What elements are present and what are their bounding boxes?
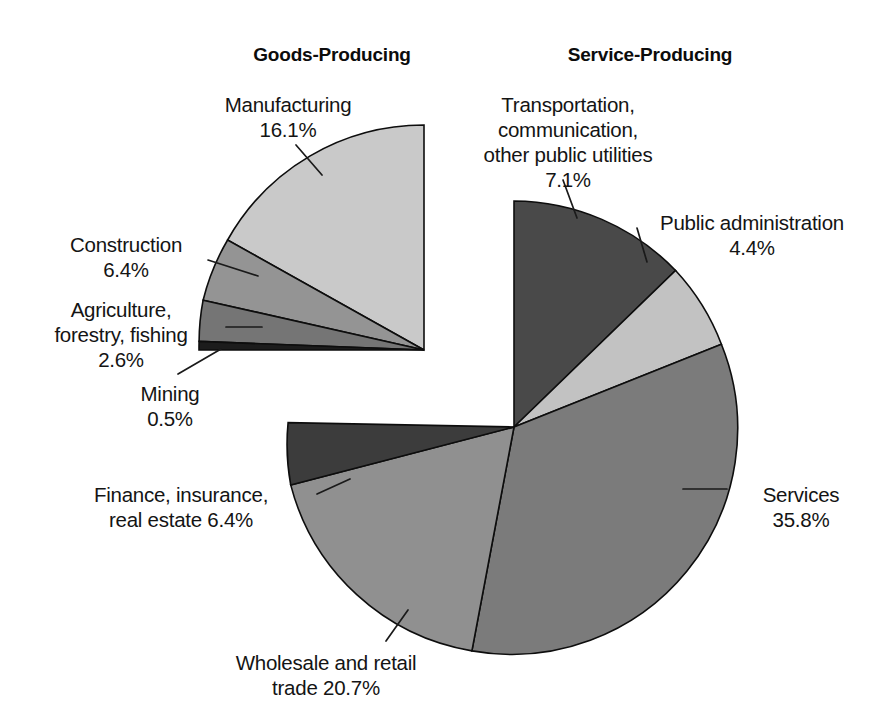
pie-label-wholesale-retail: Wholesale and retail trade 20.7% [180, 650, 472, 700]
service-producing-title: Service-Producing [525, 44, 775, 66]
goods-producing-title: Goods-Producing [212, 44, 452, 66]
pie-label-services: Services 35.8% [726, 482, 876, 532]
pie-label-transportation: Transportation, communication, other pub… [452, 92, 684, 192]
pie-label-manufacturing: Manufacturing 16.1% [170, 92, 406, 142]
pie-label-mining: Mining 0.5% [96, 381, 244, 431]
goods-producing-pie [199, 125, 424, 350]
pie-label-agriculture: Agriculture, forestry, fishing 2.6% [10, 297, 232, 372]
pie-label-construction: Construction 6.4% [20, 232, 232, 282]
pie-label-public-administration: Public administration 4.4% [627, 210, 877, 260]
pie-label-finance: Finance, insurance, real estate 6.4% [48, 482, 314, 532]
pie-slice-services[interactable] [472, 344, 738, 654]
